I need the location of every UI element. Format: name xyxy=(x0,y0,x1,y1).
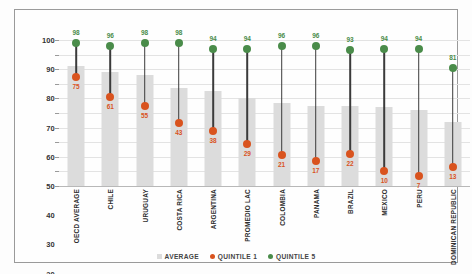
quintile5-value-label: 98 xyxy=(141,29,148,36)
chart-column: 8113DOMINICAN REPUBLIC xyxy=(436,40,470,186)
quintile5-marker xyxy=(415,45,423,53)
legend-swatch-q5-icon xyxy=(268,254,273,259)
quintile1-value-label: 22 xyxy=(346,160,353,167)
range-stem xyxy=(247,49,249,144)
range-stem xyxy=(452,68,454,167)
x-axis-category-label: BRAZIL xyxy=(347,189,354,214)
quintile1-marker xyxy=(175,119,183,127)
quintile1-value-label: 13 xyxy=(449,173,456,180)
quintile1-marker xyxy=(209,127,217,135)
quintile5-value-label: 96 xyxy=(312,32,319,39)
range-stem xyxy=(110,46,112,97)
y-axis-tick-80: 80 xyxy=(46,94,55,103)
quintile5-marker xyxy=(243,45,251,53)
y-axis-tick-60: 60 xyxy=(46,152,55,161)
y-axis-tick-100: 100 xyxy=(42,36,55,45)
quintile5-marker xyxy=(312,42,320,50)
y-axis-tick-30: 30 xyxy=(46,240,55,249)
quintile1-marker xyxy=(278,151,286,159)
x-axis-category-label: ARGENTINA xyxy=(210,189,217,229)
legend-label: QUINTILE 1 xyxy=(218,253,257,260)
chart-column: 947PERU xyxy=(402,40,436,186)
quintile1-value-label: 38 xyxy=(209,137,216,144)
range-stem xyxy=(281,46,283,156)
range-stem xyxy=(384,49,386,172)
quintile1-value-label: 21 xyxy=(278,161,285,168)
quintile1-marker xyxy=(106,93,114,101)
legend-item[interactable]: QUINTILE 1 xyxy=(210,253,257,260)
x-axis-category-label: PROMEDIO LAC xyxy=(244,189,251,242)
quintile1-marker xyxy=(312,157,320,165)
chart-column: 9617PANAMA xyxy=(299,40,333,186)
quintile5-marker xyxy=(278,42,286,50)
quintile1-value-label: 29 xyxy=(244,150,251,157)
quintile5-value-label: 93 xyxy=(346,36,353,43)
range-stem xyxy=(212,49,214,131)
quintile5-value-label: 94 xyxy=(244,35,251,42)
quintile1-value-label: 7 xyxy=(417,182,421,189)
legend-item[interactable]: AVERAGE xyxy=(157,253,199,260)
quintile1-value-label: 55 xyxy=(141,112,148,119)
y-axis-tick-40: 40 xyxy=(46,211,55,220)
quintile5-value-label: 98 xyxy=(175,29,182,36)
range-stem xyxy=(75,43,77,77)
x-axis-category-label: CHILE xyxy=(107,189,114,209)
chart-column: 9843COSTA RICA xyxy=(162,40,196,186)
quintile1-value-label: 17 xyxy=(312,167,319,174)
quintile1-marker xyxy=(72,73,80,81)
quintile1-marker xyxy=(449,163,457,171)
quintile1-value-label: 75 xyxy=(72,83,79,90)
quintile1-marker xyxy=(243,140,251,148)
x-axis-category-label: PANAMA xyxy=(312,189,319,218)
chart-column: 9855URUGUAY xyxy=(128,40,162,186)
chart-frame: 10090807060504030201009875OECD AVERAGE96… xyxy=(14,9,458,263)
quintile5-value-label: 81 xyxy=(449,54,456,61)
quintile5-value-label: 96 xyxy=(107,32,114,39)
quintile1-value-label: 10 xyxy=(381,177,388,184)
range-stem xyxy=(349,50,351,154)
chart-column: 9621COLOMBIA xyxy=(265,40,299,186)
quintile5-value-label: 96 xyxy=(278,32,285,39)
x-axis-category-label: COSTA RICA xyxy=(175,189,182,231)
quintile5-marker xyxy=(380,45,388,53)
chart-column: 9438ARGENTINA xyxy=(196,40,230,186)
x-axis-category-label: COLOMBIA xyxy=(278,189,285,226)
y-axis-tick-50: 50 xyxy=(46,182,55,191)
quintile1-marker xyxy=(415,172,423,180)
y-axis-tick-90: 90 xyxy=(46,65,55,74)
quintile5-marker xyxy=(209,45,217,53)
chart-column: 9875OECD AVERAGE xyxy=(59,40,93,186)
chart-column: 9410MEXICO xyxy=(367,40,401,186)
plot-area: 10090807060504030201009875OECD AVERAGE96… xyxy=(59,40,470,186)
legend-swatch-q1-icon xyxy=(210,254,215,259)
chart-column: 9429PROMEDIO LAC xyxy=(230,40,264,186)
chart-column: 9322BRAZIL xyxy=(333,40,367,186)
quintile5-value-label: 94 xyxy=(209,35,216,42)
quintile1-marker xyxy=(141,102,149,110)
quintile5-marker xyxy=(106,42,114,50)
quintile5-marker xyxy=(346,46,354,54)
y-axis-tick-70: 70 xyxy=(46,123,55,132)
x-axis-category-label: URUGUAY xyxy=(141,189,148,222)
range-stem xyxy=(144,43,146,106)
y-axis-tick-20: 20 xyxy=(46,269,55,274)
legend-swatch-avg-icon xyxy=(157,254,162,259)
chart-figure: 10090807060504030201009875OECD AVERAGE96… xyxy=(0,0,472,274)
chart-column: 9661CHILE xyxy=(93,40,127,186)
quintile5-marker xyxy=(72,39,80,47)
x-axis-category-label: OECD AVERAGE xyxy=(73,189,80,243)
range-stem xyxy=(178,43,180,123)
chart-legend: AVERAGEQUINTILE 1QUINTILE 5 xyxy=(15,253,457,260)
gridline-0: 0 xyxy=(59,186,470,187)
y-axis-tickmark-0 xyxy=(55,186,59,187)
quintile1-value-label: 61 xyxy=(107,103,114,110)
legend-label: QUINTILE 5 xyxy=(276,253,315,260)
quintile1-marker xyxy=(346,150,354,158)
quintile5-value-label: 94 xyxy=(415,35,422,42)
quintile5-marker xyxy=(449,64,457,72)
quintile5-marker xyxy=(175,39,183,47)
range-stem xyxy=(418,49,420,176)
legend-item[interactable]: QUINTILE 5 xyxy=(268,253,315,260)
quintile5-value-label: 94 xyxy=(381,35,388,42)
quintile5-marker xyxy=(141,39,149,47)
